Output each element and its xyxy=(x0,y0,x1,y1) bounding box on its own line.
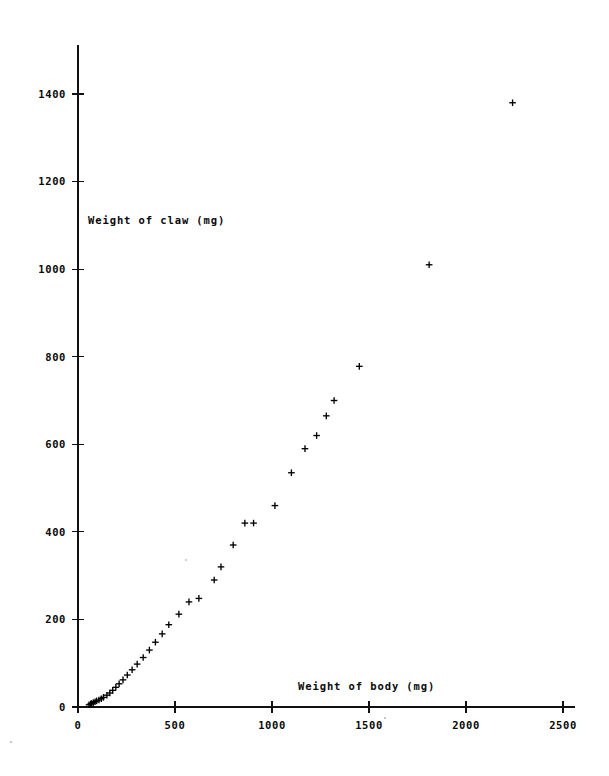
data-point xyxy=(211,577,218,584)
data-point xyxy=(159,631,166,638)
data-point xyxy=(152,639,159,646)
data-point xyxy=(218,564,225,571)
data-point xyxy=(186,599,193,606)
scan-speck xyxy=(10,741,12,743)
data-point xyxy=(165,621,172,628)
x-tick-label: 0 xyxy=(75,719,82,731)
data-point xyxy=(230,542,237,549)
plot-canvas: 0200400600800100012001400 05001000150020… xyxy=(0,0,609,776)
x-tick-label: 500 xyxy=(165,719,186,731)
x-tick-label: 1000 xyxy=(258,719,286,731)
y-axis-ticks: 0200400600800100012001400 xyxy=(38,88,84,713)
data-point xyxy=(356,363,363,370)
data-point xyxy=(129,666,136,673)
y-axis-title: Weight of claw (mg) xyxy=(88,214,225,226)
scan-speck xyxy=(384,717,386,719)
data-point xyxy=(176,611,183,618)
x-tick-label: 2000 xyxy=(452,719,480,731)
y-tick-label: 1200 xyxy=(38,175,66,187)
data-point xyxy=(302,445,309,452)
data-point xyxy=(116,680,123,687)
x-tick-label: 2500 xyxy=(549,719,577,731)
data-point xyxy=(113,684,120,691)
x-axis-title: Weight of body (mg) xyxy=(298,680,435,692)
data-point xyxy=(146,647,153,654)
data-point xyxy=(120,677,127,684)
data-point xyxy=(140,654,147,661)
y-tick-label: 0 xyxy=(59,701,66,713)
data-point xyxy=(250,520,257,527)
data-point xyxy=(323,413,330,420)
data-point-group xyxy=(86,99,516,708)
y-tick-label: 1400 xyxy=(38,88,66,100)
data-point xyxy=(134,661,141,668)
y-tick-label: 600 xyxy=(45,438,66,450)
y-tick-label: 200 xyxy=(45,613,66,625)
scatter-plot-figure: 0200400600800100012001400 05001000150020… xyxy=(0,0,609,776)
data-point xyxy=(288,469,295,476)
scan-speck xyxy=(185,559,187,561)
data-point xyxy=(242,520,249,527)
x-axis-ticks: 05001000150020002500 xyxy=(75,701,577,731)
data-point xyxy=(313,432,320,439)
y-tick-label: 400 xyxy=(45,526,66,538)
x-tick-label: 1500 xyxy=(355,719,383,731)
data-point xyxy=(124,672,131,679)
y-tick-label: 800 xyxy=(45,351,66,363)
data-point xyxy=(272,502,279,509)
data-point xyxy=(196,595,203,602)
data-point xyxy=(509,99,516,106)
y-tick-label: 1000 xyxy=(38,263,66,275)
data-point xyxy=(331,397,338,404)
data-point xyxy=(426,261,433,268)
